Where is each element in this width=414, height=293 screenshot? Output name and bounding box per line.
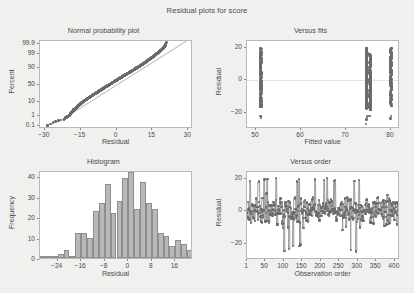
versus-order-point	[345, 226, 347, 228]
xtick-fitted-80-tickmark	[390, 128, 391, 130]
xtick-residual--15: −15	[64, 131, 96, 138]
versus-order-point	[261, 197, 263, 199]
ytick-frequency-0-tickmark	[37, 259, 39, 260]
xtick-residual-hist-8-tickmark	[151, 259, 152, 261]
xtick-fitted-70-tickmark	[345, 128, 346, 130]
ytick-percent-99-9: 99.9	[5, 39, 35, 46]
xtick-residual--30-tickmark	[44, 128, 45, 130]
versus-order-point	[300, 202, 302, 204]
ytick-residual-vf--20-tickmark	[244, 112, 246, 113]
versus-order-point	[298, 204, 300, 206]
versus-order-point	[393, 219, 395, 221]
ytick-percent-0-1: 0.1	[5, 121, 35, 128]
versus-order-point	[303, 206, 305, 208]
versus-order-connector	[259, 181, 260, 202]
ytick-percent-0-1-tickmark	[37, 125, 39, 126]
versus-order-point	[298, 178, 300, 180]
panel-normal-probability-plot: Normal probability plot Percent Residual…	[0, 26, 207, 150]
versus-order-point	[279, 197, 281, 199]
versus-order-point	[350, 249, 352, 251]
normal-reference-line	[59, 41, 186, 122]
versus-order-point	[340, 209, 342, 211]
ytick-percent-99-9-tickmark	[37, 43, 39, 44]
ytick-percent-1-tickmark	[37, 115, 39, 116]
versus-order-point	[299, 221, 301, 223]
ytick-frequency-20-tickmark	[37, 218, 39, 219]
versus-order-point	[250, 213, 252, 215]
versus-order-point	[283, 250, 285, 252]
plot-area-histogram	[39, 171, 192, 259]
xtick-residual-15: 15	[135, 131, 167, 138]
xtick-order-400: 400	[378, 262, 410, 269]
xtick-residual-30-tickmark	[187, 128, 188, 130]
versus-order-connector	[335, 180, 336, 208]
zero-reference-line-vf	[247, 80, 398, 81]
xtick-residual--30: −30	[28, 131, 60, 138]
ytick-residual-vo-0-tickmark	[244, 210, 246, 211]
versus-order-point	[295, 214, 297, 216]
ytick-residual-vo-0: 0	[212, 206, 242, 213]
versus-order-point	[396, 223, 398, 225]
versus-order-point	[353, 180, 355, 182]
plot-area-versus-fits	[246, 40, 399, 128]
versus-order-connector	[354, 181, 355, 204]
ytick-percent-90-tickmark	[37, 67, 39, 68]
versus-order-point	[289, 201, 291, 203]
ytick-residual-vf-20-tickmark	[244, 47, 246, 48]
versus-order-point	[254, 220, 256, 222]
versus-order-point	[389, 222, 391, 224]
versus-order-point	[371, 207, 373, 209]
xtick-residual-30: 30	[171, 131, 203, 138]
xtick-residual-0-tickmark	[116, 128, 117, 130]
versus-order-point	[359, 226, 361, 228]
xtick-fitted-60-tickmark	[300, 128, 301, 130]
ytick-percent-1: 1	[5, 111, 35, 118]
versus-order-point	[368, 203, 370, 205]
versus-order-point	[398, 208, 399, 210]
ytick-frequency-30: 30	[5, 194, 35, 201]
versus-fits-outlier-point	[365, 123, 368, 126]
versus-order-point	[321, 215, 323, 217]
ytick-frequency-30-tickmark	[37, 198, 39, 199]
xtick-order-250-tickmark	[338, 259, 339, 261]
versus-order-point	[343, 214, 345, 216]
versus-order-point	[259, 205, 261, 207]
xtick-order-50-tickmark	[264, 259, 265, 261]
versus-order-point	[287, 211, 289, 213]
versus-order-point	[318, 199, 320, 201]
ytick-frequency-10: 10	[5, 235, 35, 242]
versus-order-point	[302, 227, 304, 229]
ytick-frequency-10-tickmark	[37, 239, 39, 240]
ytick-residual-vf--20: −20	[212, 108, 242, 115]
xtick-order-150-tickmark	[301, 259, 302, 261]
versus-order-connector	[276, 178, 277, 200]
xtick-fitted-70: 70	[329, 131, 361, 138]
ytick-frequency-20: 20	[5, 214, 35, 221]
axis-label-fitted-value: Fitted value	[246, 138, 399, 145]
versus-order-point	[396, 214, 398, 216]
versus-order-connector	[398, 208, 399, 210]
versus-order-point	[318, 219, 320, 221]
versus-order-point	[307, 221, 309, 223]
xtick-fitted-50: 50	[239, 131, 271, 138]
versus-order-point	[248, 218, 250, 220]
residual-plots-figure: Residual plots for score Normal probabil…	[0, 0, 414, 293]
ytick-percent-50-tickmark	[37, 84, 39, 85]
versus-order-point	[276, 223, 278, 225]
ytick-residual-vf-0-tickmark	[244, 79, 246, 80]
xtick-order-100-tickmark	[283, 259, 284, 261]
xtick-fitted-80: 80	[374, 131, 406, 138]
xtick-residual-0: 0	[100, 131, 132, 138]
xtick-residual-hist-16: 16	[158, 262, 190, 269]
ytick-residual-vo-20: 20	[212, 174, 242, 181]
plot-area-normal-probability	[39, 40, 192, 128]
versus-order-point	[317, 212, 319, 214]
axis-label-observation-order: Observation order	[246, 270, 399, 277]
ytick-residual-vf-0: 0	[212, 75, 242, 82]
versus-order-point	[255, 197, 257, 199]
versus-order-point	[356, 221, 358, 223]
versus-order-point	[273, 203, 275, 205]
versus-order-point	[250, 222, 252, 224]
versus-order-point	[398, 204, 399, 206]
plot-area-versus-order	[246, 171, 399, 259]
